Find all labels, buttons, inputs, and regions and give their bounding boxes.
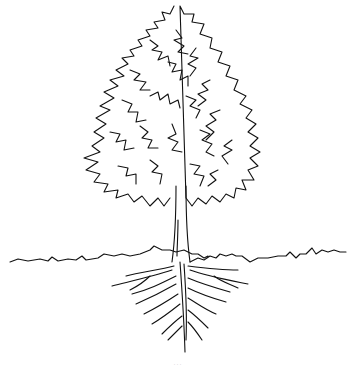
canopy <box>84 6 260 206</box>
tree-illustration: ··· <box>0 0 356 372</box>
caption-text: ··· <box>0 361 356 367</box>
roots <box>112 262 248 352</box>
tree-drawing <box>0 0 356 372</box>
ground-line <box>10 246 346 262</box>
